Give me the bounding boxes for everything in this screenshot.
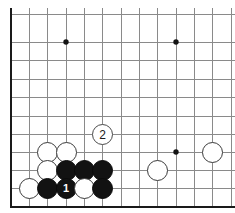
stone-move-number: 1 — [63, 183, 69, 194]
star-point-upper-right — [173, 39, 178, 44]
go-board: 12 — [0, 0, 235, 213]
stone-white[interactable] — [202, 142, 223, 163]
star-point-lower-right — [173, 149, 178, 154]
stone-move-number: 2 — [99, 129, 106, 141]
star-point-upper-left — [63, 39, 68, 44]
stone-black[interactable] — [92, 178, 113, 199]
